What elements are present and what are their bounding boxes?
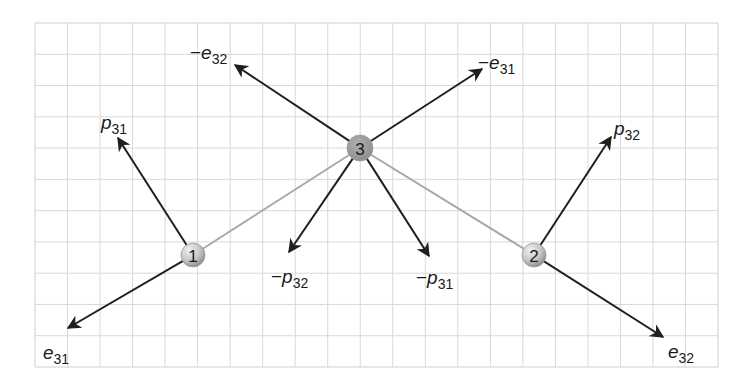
vector-label-neg-e32: −e32 <box>190 42 227 67</box>
vector-e31-arrow <box>68 261 184 328</box>
vectors <box>68 65 663 337</box>
vector-label-neg-p32: −p32 <box>271 266 308 291</box>
vector-label-e31: e31 <box>43 342 69 367</box>
grid <box>35 23 718 367</box>
vector-label-neg-e31: −e31 <box>478 52 515 77</box>
node-label: 2 <box>529 247 538 266</box>
vector-neg-p31-arrow <box>366 158 429 256</box>
vector-label-p31: p31 <box>100 112 127 137</box>
vector-neg-e32-arrow <box>235 65 350 141</box>
vector-labels: p31e31−e32−e31−p32−p31p32e32 <box>43 42 694 367</box>
node-label: 3 <box>355 140 364 159</box>
vector-label-e32: e32 <box>668 341 694 366</box>
nodes: 123 <box>181 135 546 267</box>
link-2-3 <box>360 148 534 255</box>
links <box>193 148 534 255</box>
node-1: 1 <box>181 243 205 267</box>
vector-e32-arrow <box>543 261 663 337</box>
vector-label-neg-p31: −p31 <box>416 267 453 292</box>
node-label: 1 <box>188 247 197 266</box>
node-3: 3 <box>347 135 373 161</box>
link-1-3 <box>193 148 360 255</box>
vector-diagram: 123 p31e31−e32−e31−p32−p31p32e32 <box>0 0 749 385</box>
vector-neg-e31-arrow <box>370 69 482 141</box>
node-2: 2 <box>522 243 546 267</box>
vector-label-p32: p32 <box>613 118 640 143</box>
vector-p32-arrow <box>540 137 611 246</box>
vector-p31-arrow <box>118 138 187 246</box>
